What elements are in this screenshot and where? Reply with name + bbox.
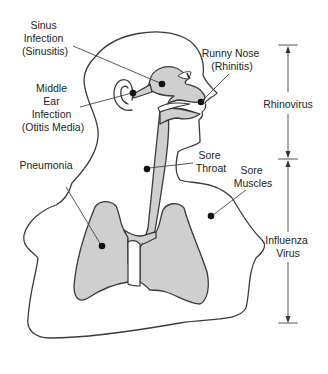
throat-marker [144,163,193,172]
label-sore-throat: Sore Throat [196,149,226,174]
carina-gap [128,241,140,286]
eustachian-tube [133,84,152,98]
label-middle-ear: Middle Ear Infection (Otitis Media) [22,82,84,133]
nose-marker [198,74,229,105]
label-pneumonia: Pneumonia [19,159,72,171]
label-sinus: Sinus Infection (Sinusitis) [22,19,68,57]
label-rhinovirus: Rhinovirus [263,98,313,110]
left-lung [74,202,130,300]
label-influenza: Influenza Virus [265,234,311,259]
body-outline [24,32,265,338]
tongue [160,108,200,124]
label-sore-muscles: Sore Muscles [234,164,273,189]
label-runny-nose: Runny Nose (Rhinitis) [202,47,263,72]
muscles-marker [208,190,246,219]
respiratory-diagram: Sinus Infection (Sinusitis) Middle Ear I… [0,0,328,374]
